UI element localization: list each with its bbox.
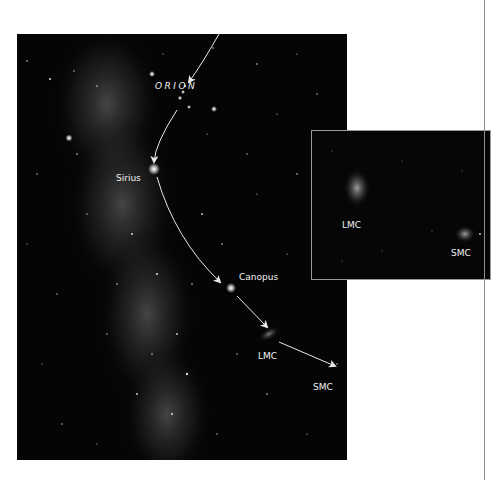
sky-field — [17, 34, 347, 460]
label-sirius: Sirius — [116, 173, 141, 183]
page-divider-rule — [484, 0, 485, 480]
canopus-star — [226, 283, 236, 293]
smc-cloud — [454, 225, 476, 243]
lmc-glow — [256, 323, 283, 345]
inset-label-lmc: LMC — [342, 220, 361, 230]
label-smc: SMC — [313, 382, 333, 392]
sirius-star — [148, 163, 160, 175]
label-canopus: Canopus — [239, 272, 278, 282]
inset-label-smc: SMC — [451, 248, 471, 258]
lmc-cloud — [343, 168, 371, 208]
milky-way-band — [52, 34, 212, 460]
inset-magellanic-clouds-photo: LMC SMC — [311, 130, 491, 280]
label-orion: ORION — [155, 81, 197, 91]
main-sky-photo: ORION Sirius Canopus LMC SMC — [17, 34, 347, 460]
label-lmc: LMC — [258, 351, 277, 361]
